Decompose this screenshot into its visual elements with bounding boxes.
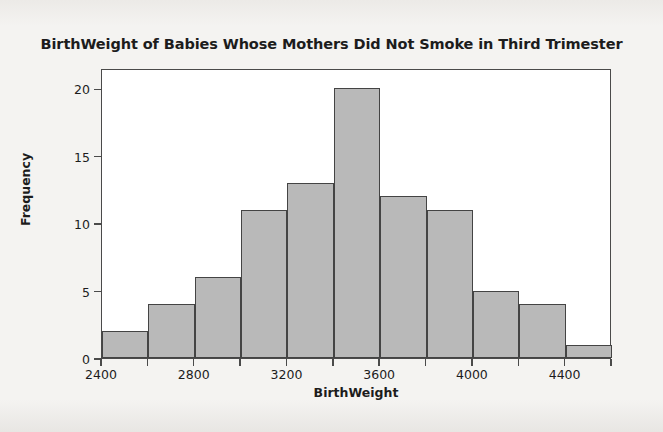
x-axis-tick xyxy=(610,359,611,366)
x-axis-tick-label: 4000 xyxy=(442,367,502,382)
x-axis-tick xyxy=(378,359,379,366)
x-axis-title: BirthWeight xyxy=(101,385,611,400)
x-axis-tick xyxy=(564,359,565,366)
x-axis-tick xyxy=(425,359,426,366)
histogram-bar xyxy=(148,304,194,358)
x-axis-tick-label: 4400 xyxy=(535,367,595,382)
y-axis-tick-label: 0 xyxy=(50,352,90,367)
y-axis-tick-label: 20 xyxy=(50,82,90,97)
x-axis-tick xyxy=(286,359,287,366)
histogram-bar xyxy=(519,304,565,358)
histogram-bar xyxy=(334,88,380,358)
histogram-bar xyxy=(102,331,148,358)
histogram-bar xyxy=(380,196,426,358)
histogram-bar xyxy=(427,210,473,358)
plot-area xyxy=(102,70,610,358)
y-axis-tick-label: 10 xyxy=(50,217,90,232)
x-axis-tick xyxy=(518,359,519,366)
x-axis-tick xyxy=(147,359,148,366)
histogram-bar xyxy=(195,277,241,358)
x-axis-tick-label: 2800 xyxy=(164,367,224,382)
histogram-bar xyxy=(241,210,287,358)
x-axis-tick xyxy=(239,359,240,366)
histogram-bar xyxy=(473,291,519,358)
histogram-figure: BirthWeight of Babies Whose Mothers Did … xyxy=(0,0,663,432)
x-axis-tick xyxy=(471,359,472,366)
histogram-bar xyxy=(566,345,612,358)
y-axis-tick xyxy=(94,223,102,224)
y-axis-tick-label: 5 xyxy=(50,284,90,299)
y-axis-tick xyxy=(94,156,102,157)
y-axis-tick-label: 15 xyxy=(50,149,90,164)
x-axis-tick-label: 2400 xyxy=(71,367,131,382)
histogram-bar xyxy=(287,183,333,358)
y-axis-title: Frequency xyxy=(18,135,33,245)
x-axis-tick-label: 3200 xyxy=(256,367,316,382)
x-axis-tick xyxy=(193,359,194,366)
plot-frame xyxy=(101,69,611,359)
x-axis-tick xyxy=(100,359,101,366)
x-axis-tick xyxy=(332,359,333,366)
chart-title: BirthWeight of Babies Whose Mothers Did … xyxy=(0,36,663,52)
y-axis-tick xyxy=(94,89,102,90)
y-axis-tick xyxy=(94,291,102,292)
x-axis-tick-label: 3600 xyxy=(349,367,409,382)
